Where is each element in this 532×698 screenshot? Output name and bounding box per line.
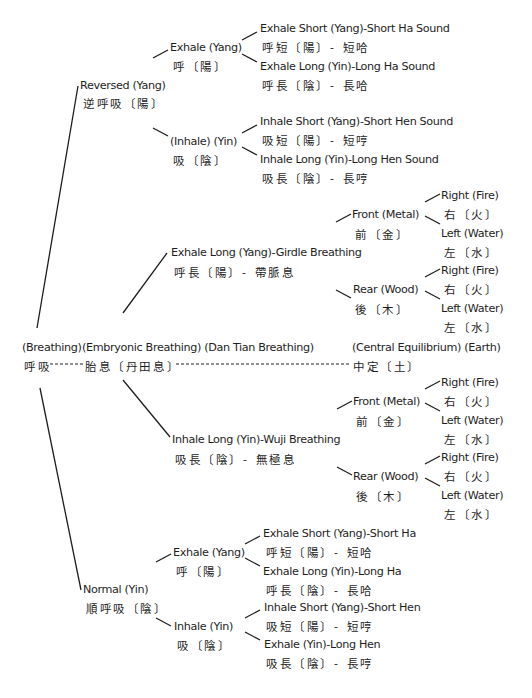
connector-reversed-exhale <box>153 50 168 58</box>
leaf-girdle-rear-left-en: Left (Water) <box>441 302 503 316</box>
connector-normal-inhale <box>156 618 171 626</box>
connector-girdle-front-left <box>425 216 440 224</box>
connector-wuji-rear-right <box>425 456 440 464</box>
node-girdle-rear-zh: 後〔木〕 <box>355 303 409 317</box>
breathing-classification-tree: (Breathing) 呼吸 Reversed (Yang) 逆呼吸〔陽〕 Ex… <box>0 0 532 698</box>
node-rev-exhale-zh: 呼〔陽〕 <box>173 60 227 74</box>
leaf-rev-inhale-long-en: Inhale Long (Yin)-Long Hen Sound <box>260 153 439 167</box>
connector-girdle-rear-right <box>425 269 440 277</box>
leaf-rev-inhale-short-zh: 吸短〔陽〕- 短哼 <box>262 134 370 148</box>
leaf-norm-exhale-long-zh: 呼長〔陰〕- 長哈 <box>266 584 374 598</box>
connector-girdle-front <box>336 214 351 222</box>
node-girdle-front-en: Front (Metal) <box>352 208 419 222</box>
leaf-norm-inhale-long-en: Exhale (Yin)-Long Hen <box>264 638 380 652</box>
leaf-girdle-rear-right-zh: 右〔火〕 <box>444 283 498 297</box>
connector-root-reversed <box>37 86 78 328</box>
node-girdle-en: Exhale Long (Yang)-Girdle Breathing <box>171 246 361 260</box>
node-norm-inhale-zh: 吸〔陰〕 <box>177 639 231 653</box>
node-rev-inhale-zh: 吸〔陰〕 <box>173 154 227 168</box>
leaf-wuji-front-left-en: Left (Water) <box>441 414 503 428</box>
node-embryonic-en: (Embryonic Breathing) (Dan Tian Breathin… <box>82 341 314 355</box>
leaf-norm-exhale-short-zh: 呼短〔陽〕- 短哈 <box>266 546 374 560</box>
connector-wuji-front <box>337 401 352 409</box>
node-reversed-en: Reversed (Yang) <box>80 79 165 93</box>
node-rev-exhale-en: Exhale (Yang) <box>170 41 242 55</box>
connector-normal-exhale <box>156 554 171 562</box>
leaf-rev-exhale-short-en: Exhale Short (Yang)-Short Ha Sound <box>260 22 450 36</box>
leaf-norm-inhale-long-zh: 吸長〔陰〕- 長哼 <box>266 657 374 671</box>
connector-embryonic-girdle <box>123 253 167 313</box>
node-normal-en: Normal (Yin) <box>83 583 148 597</box>
leaf-norm-inhale-short-en: Inhale Short (Yang)-Short Hen <box>264 601 420 615</box>
leaf-girdle-front-right-en: Right (Fire) <box>441 189 499 203</box>
connector-girdle-front-right <box>425 194 440 202</box>
leaf-girdle-rear-left-zh: 左〔水〕 <box>444 321 498 335</box>
leaf-rev-exhale-long-en: Exhale Long (Yin)-Long Ha Sound <box>260 60 435 74</box>
node-normal-zh: 順呼吸〔陰〕 <box>86 602 168 616</box>
connector-root-normal <box>40 388 81 590</box>
connector-wuji-front-right <box>425 381 440 389</box>
node-girdle-rear-en: Rear (Wood) <box>353 283 418 297</box>
node-embryonic-zh: 胎息〔丹田息〕 <box>85 360 180 374</box>
leaf-rev-exhale-long-zh: 呼長〔陰〕- 長哈 <box>262 79 370 93</box>
connector-reversed-inhale <box>153 128 168 136</box>
leaf-wuji-front-right-zh: 右〔火〕 <box>444 395 498 409</box>
connector-norm-exhale-leaf1 <box>245 536 260 544</box>
node-girdle-front-zh: 前〔金〕 <box>355 228 409 242</box>
connector-wuji-rear-left <box>425 478 440 486</box>
node-norm-inhale-en: Inhale (Yin) <box>174 620 233 634</box>
connector-wuji-rear <box>337 467 352 475</box>
leaf-wuji-rear-left-zh: 左〔水〕 <box>444 508 498 522</box>
leaf-norm-exhale-short-en: Exhale Short (Yang)-Short Ha <box>263 527 416 541</box>
node-center-zh: 中定〔土〕 <box>353 360 421 374</box>
leaf-rev-inhale-long-zh: 吸長〔陰〕- 長哼 <box>262 172 370 186</box>
node-center-en: (Central Equilibrium) (Earth) <box>352 341 501 355</box>
connector-norm-inhale-leaf1 <box>245 610 260 618</box>
leaf-rev-inhale-short-en: Inhale Short (Yang)-Short Hen Sound <box>260 115 453 129</box>
node-norm-exhale-zh: 呼〔陽〕 <box>176 565 230 579</box>
leaf-girdle-front-left-en: Left (Water) <box>441 227 503 241</box>
node-wuji-rear-en: Rear (Wood) <box>353 470 418 484</box>
node-wuji-zh: 吸長〔陰〕- 無極息 <box>175 453 297 467</box>
connector-girdle-rear <box>336 290 351 298</box>
node-wuji-rear-zh: 後〔木〕 <box>356 490 410 504</box>
leaf-wuji-rear-right-en: Right (Fire) <box>441 451 499 465</box>
connector-norm-inhale-leaf2 <box>245 632 260 640</box>
connector-rev-exhale-leaf1 <box>242 32 257 40</box>
connector-rev-inhale-leaf1 <box>242 125 257 133</box>
leaf-girdle-front-left-zh: 左〔水〕 <box>444 246 498 260</box>
node-wuji-front-zh: 前〔金〕 <box>356 415 410 429</box>
leaf-rev-exhale-short-zh: 呼短〔陽〕- 短哈 <box>262 41 370 55</box>
leaf-girdle-rear-right-en: Right (Fire) <box>441 264 499 278</box>
node-wuji-front-en: Front (Metal) <box>353 395 420 409</box>
connector-rev-exhale-leaf2 <box>242 54 257 62</box>
node-reversed-zh: 逆呼吸〔陽〕 <box>83 97 165 111</box>
leaf-wuji-rear-right-zh: 右〔火〕 <box>444 470 498 484</box>
connector-girdle-rear-left <box>425 291 440 299</box>
connector-embryonic-wuji <box>123 380 170 437</box>
leaf-wuji-rear-left-en: Left (Water) <box>441 489 503 503</box>
node-breathing-en: (Breathing) <box>22 341 81 355</box>
leaf-norm-exhale-long-en: Exhale Long (Yin)-Long Ha <box>263 565 401 579</box>
leaf-girdle-front-right-zh: 右〔火〕 <box>444 208 498 222</box>
connector-wuji-front-left <box>425 403 440 411</box>
leaf-wuji-front-left-zh: 左〔水〕 <box>444 433 498 447</box>
leaf-norm-inhale-short-zh: 吸短〔陽〕- 短哼 <box>266 620 374 634</box>
node-breathing-zh: 呼吸 <box>24 360 51 374</box>
leaf-wuji-front-right-en: Right (Fire) <box>441 376 499 390</box>
node-wuji-en: Inhale Long (Yin)-Wuji Breathing <box>172 433 340 447</box>
node-girdle-zh: 呼長〔陽〕- 帶脈息 <box>174 266 296 280</box>
connector-norm-exhale-leaf2 <box>245 558 260 566</box>
node-rev-inhale-en: (Inhale) (Yin) <box>170 135 237 149</box>
connector-rev-inhale-leaf2 <box>242 147 257 155</box>
node-norm-exhale-en: Exhale (Yang) <box>173 546 245 560</box>
